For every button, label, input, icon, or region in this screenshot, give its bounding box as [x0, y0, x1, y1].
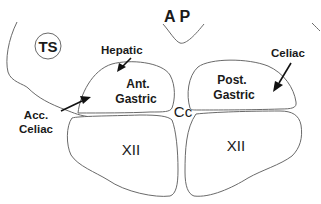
ant-gastric-label-line1: Ant.	[126, 77, 149, 91]
xii-right-label: XII	[227, 137, 245, 154]
ap-label: A P	[164, 8, 190, 25]
ant-gastric-label-line2: Gastric	[115, 92, 157, 106]
acc-celiac-label-line2: Celiac	[19, 123, 53, 135]
post-gastric-label-line2: Gastric	[213, 88, 255, 102]
dorsal-vagal-complex-diagram: A P TS Hepatic Celiac Acc. Celiac Ant. G…	[0, 0, 321, 204]
cc-label: Cc	[174, 103, 193, 120]
area-postrema-outline	[163, 24, 204, 43]
xii-left-label: XII	[122, 141, 140, 158]
ts-label: TS	[38, 38, 57, 55]
acc-celiac-label-line1: Acc.	[24, 109, 48, 121]
post-gastric-label-line1: Post.	[217, 73, 246, 87]
hepatic-label: Hepatic	[101, 44, 143, 56]
right-outline	[312, 23, 320, 31]
celiac-label: Celiac	[271, 47, 305, 59]
